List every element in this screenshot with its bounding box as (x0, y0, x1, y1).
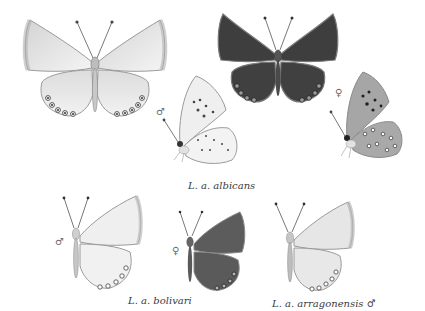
butterfly-plate: ♂ L. a. albicans ♀ (0, 0, 425, 311)
butterfly-arragonensis-male-upperside (272, 200, 357, 295)
butterfly-albicans-male-upperside (20, 10, 170, 120)
caption-albicans: L. a. albicans (188, 180, 255, 191)
butterfly-bolivari-female-upperside (176, 210, 251, 295)
butterfly-bolivari-male-upperside (58, 192, 148, 292)
butterfly-albicans-male-underside (158, 70, 243, 165)
butterfly-albicans-female-underside (325, 68, 410, 163)
caption-arragonensis: L. a. arragonensis ♂ (272, 298, 376, 309)
caption-bolivari: L. a. bolivari (128, 295, 192, 306)
